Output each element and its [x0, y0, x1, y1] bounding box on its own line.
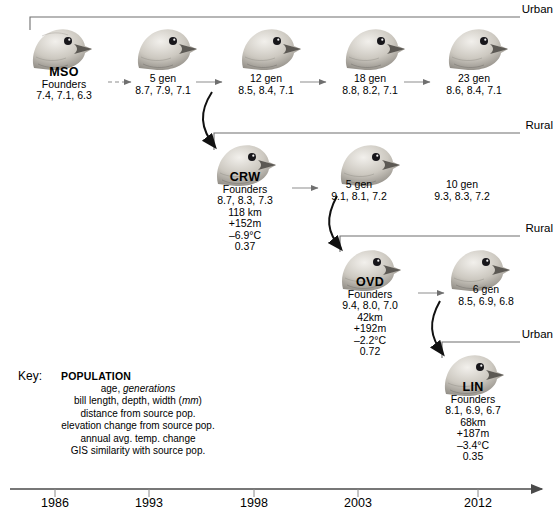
- generation-bill: 8.5, 8.4, 7.1: [221, 85, 311, 97]
- habitat-label-urban-1: Urban: [475, 3, 553, 15]
- axis-tick-label: 2012: [464, 496, 492, 510]
- population-name: OVD: [327, 277, 413, 289]
- generation-step-3: 18 gen 8.8, 8.2, 7.1: [325, 73, 415, 96]
- population-bill: 8.7, 8.3, 7.3: [202, 195, 288, 207]
- key-row: GIS similarity with source pop.: [18, 445, 258, 457]
- generation-bill: 9.3, 8.3, 7.2: [417, 191, 507, 203]
- generation-step-4: 23 gen 8.6, 8.4, 7.1: [429, 73, 519, 96]
- key-row: annual avg. temp. change: [18, 433, 258, 445]
- generation-bill: 8.7, 7.9, 7.1: [118, 85, 208, 97]
- axis-tick-label: 2003: [344, 496, 372, 510]
- generation-bill: 9.1, 8.1, 7.2: [314, 191, 404, 203]
- population-bill: 7.4, 7.1, 6.3: [21, 90, 107, 102]
- bird-head-image: [444, 24, 510, 72]
- generation-count: 6 gen: [441, 284, 531, 296]
- axis-tick-label: 1998: [240, 496, 268, 510]
- generation-step-7: 6 gen 8.5, 6.9, 6.8: [441, 284, 531, 307]
- key-row-text: annual avg. temp. change: [80, 433, 195, 444]
- population-name: CRW: [202, 172, 288, 184]
- population-name: LIN: [430, 382, 516, 394]
- habitat-label-text: Urban: [522, 3, 553, 15]
- bird-head-image: [133, 24, 199, 72]
- timeline-axis: 1986 1993 1998 2003 2012: [0, 496, 558, 518]
- generation-step-2: 12 gen 8.5, 8.4, 7.1: [221, 73, 311, 96]
- key-row: bill length, depth, width (mm): [18, 395, 258, 407]
- key-row: age, generations: [18, 383, 258, 395]
- key-row-text: distance from source pop.: [80, 408, 195, 419]
- generation-count: 10 gen: [417, 179, 507, 191]
- figure-canvas: Urban Rural Rural Urban MSO Founders 7.4…: [0, 0, 558, 523]
- generation-count: 12 gen: [221, 73, 311, 85]
- key-row-emphasis: generations: [123, 383, 175, 394]
- population-node-mso: MSO Founders 7.4, 7.1, 6.3: [21, 67, 107, 102]
- habitat-label-text: Rural: [526, 222, 553, 234]
- key-row: distance from source pop.: [18, 408, 258, 420]
- habitat-label-rural-2: Rural: [475, 222, 553, 234]
- generation-bill: 8.5, 6.9, 6.8: [441, 296, 531, 308]
- population-bill: 8.1, 6.9, 6.7: [430, 405, 516, 417]
- habitat-label-text: Rural: [526, 119, 553, 131]
- generation-count: 5 gen: [314, 179, 404, 191]
- generation-count: 5 gen: [118, 73, 208, 85]
- bird-head-image: [237, 24, 303, 72]
- population-gis: 0.35: [430, 451, 516, 463]
- population-name: MSO: [21, 67, 107, 79]
- generation-step-1: 5 gen 8.7, 7.9, 7.1: [118, 73, 208, 96]
- key-row-emphasis: mm: [182, 395, 199, 406]
- population-elevation: +187m: [430, 428, 516, 440]
- population-node-lin: LIN Founders 8.1, 6.9, 6.7 68km +187m –3…: [430, 382, 516, 463]
- population-bill: 9.4, 8.0, 7.0: [327, 300, 413, 312]
- key-row-text: age,: [101, 383, 123, 394]
- population-elevation: +192m: [327, 323, 413, 335]
- generation-bill: 8.8, 8.2, 7.1: [325, 85, 415, 97]
- key-row-text: elevation change from source pop.: [61, 420, 214, 431]
- habitat-label-rural-1: Rural: [475, 119, 553, 131]
- key-population-header: POPULATION: [61, 370, 131, 382]
- key-row-text: bill length, depth, width (: [74, 395, 182, 406]
- generation-bill: 8.6, 8.4, 7.1: [429, 85, 519, 97]
- generation-count: 23 gen: [429, 73, 519, 85]
- key-row-text: GIS similarity with source pop.: [71, 445, 206, 456]
- population-gis: 0.72: [327, 346, 413, 358]
- generation-count: 18 gen: [325, 73, 415, 85]
- axis-tick-label: 1986: [41, 496, 69, 510]
- key-label: Key:: [18, 369, 42, 383]
- population-node-ovd: OVD Founders 9.4, 8.0, 7.0 42km +192m –2…: [327, 277, 413, 358]
- population-node-crw: CRW Founders 8.7, 8.3, 7.3 118 km +152m …: [202, 172, 288, 253]
- key-row-suffix: ): [199, 395, 202, 406]
- axis-tick-label: 1993: [135, 496, 163, 510]
- bird-head-image: [341, 24, 407, 72]
- population-elevation: +152m: [202, 218, 288, 230]
- key-row: elevation change from source pop.: [18, 420, 258, 432]
- population-gis: 0.37: [202, 241, 288, 253]
- habitat-label-text: Urban: [522, 328, 553, 340]
- habitat-label-urban-2: Urban: [475, 328, 553, 340]
- generation-step-6: 10 gen 9.3, 8.3, 7.2: [417, 179, 507, 202]
- key-legend: Key: POPULATION age, generations bill le…: [18, 369, 258, 457]
- generation-step-5: 5 gen 9.1, 8.1, 7.2: [314, 179, 404, 202]
